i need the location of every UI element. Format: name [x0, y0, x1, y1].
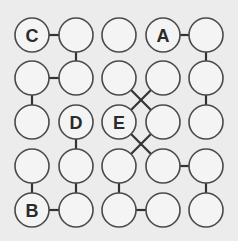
node-empty	[189, 193, 223, 227]
node-empty	[59, 61, 93, 95]
node-circle	[15, 61, 49, 95]
node-empty	[59, 149, 93, 183]
node-empty	[146, 105, 180, 139]
node-circle	[146, 193, 180, 227]
node-empty	[59, 193, 93, 227]
node-d: D	[59, 105, 93, 139]
node-circle	[59, 18, 93, 52]
node-empty	[102, 193, 136, 227]
node-circle	[59, 193, 93, 227]
node-empty	[15, 149, 49, 183]
node-c: C	[15, 18, 49, 52]
node-empty	[146, 193, 180, 227]
node-label: D	[70, 113, 83, 133]
node-e: E	[102, 105, 136, 139]
node-circle	[15, 105, 49, 139]
node-circle	[146, 149, 180, 183]
node-empty	[146, 149, 180, 183]
node-circle	[189, 149, 223, 183]
node-circle	[102, 193, 136, 227]
node-empty	[102, 61, 136, 95]
node-empty	[189, 18, 223, 52]
node-circle	[146, 105, 180, 139]
node-circle	[102, 18, 136, 52]
node-b: B	[15, 193, 49, 227]
node-circle	[189, 105, 223, 139]
node-empty	[102, 18, 136, 52]
node-empty	[189, 61, 223, 95]
node-circle	[59, 61, 93, 95]
node-a: A	[146, 18, 180, 52]
node-empty	[146, 61, 180, 95]
node-circle	[189, 18, 223, 52]
node-empty	[189, 149, 223, 183]
node-empty	[102, 149, 136, 183]
node-circle	[59, 149, 93, 183]
node-circle	[102, 149, 136, 183]
nodes-layer: CADEB	[15, 18, 223, 227]
node-empty	[59, 18, 93, 52]
node-circle	[15, 149, 49, 183]
node-circle	[102, 61, 136, 95]
node-label: B	[26, 201, 39, 221]
node-circle	[189, 193, 223, 227]
puzzle-diagram: CADEB	[0, 0, 238, 241]
node-circle	[146, 61, 180, 95]
node-empty	[15, 61, 49, 95]
node-label: C	[26, 26, 39, 46]
node-circle	[189, 61, 223, 95]
node-label: A	[157, 26, 170, 46]
node-empty	[189, 105, 223, 139]
node-empty	[15, 105, 49, 139]
node-label: E	[113, 113, 125, 133]
grid-canvas: CADEB	[0, 0, 238, 241]
